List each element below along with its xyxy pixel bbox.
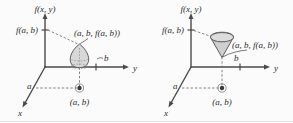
figure-root: f(x, y) f(a, b) (a, b, f(a, b)) y x b a … (0, 0, 293, 123)
right-cone-top-ellipse (210, 33, 233, 42)
left-point3d-label: (a, b, f(a, b)) (74, 28, 120, 38)
left-y-axis-label: y (132, 63, 137, 73)
right-vertical-axis-label: f(x, y) (181, 4, 202, 14)
left-a-label: a (27, 81, 32, 91)
figure-canvas: f(x, y) f(a, b) (a, b, f(a, b)) y x b a … (0, 0, 293, 123)
left-base-point-label: (a, b) (70, 97, 90, 107)
right-x-axis-label: x (163, 108, 168, 118)
right-b-label: b (234, 53, 239, 63)
left-fab-label: f(a, b) (16, 25, 38, 35)
right-a-label: a (173, 81, 178, 91)
left-x-axis-label: x (17, 108, 22, 118)
right-base-point-label: (a, b) (212, 97, 232, 107)
right-y-axis-label: y (273, 63, 278, 73)
right-fab-label: f(a, b) (162, 25, 184, 35)
right-point3d-label: (a, b, f(a, b)) (232, 40, 278, 50)
left-vertical-axis-label: f(x, y) (35, 4, 56, 14)
left-b-label: b (104, 53, 109, 63)
